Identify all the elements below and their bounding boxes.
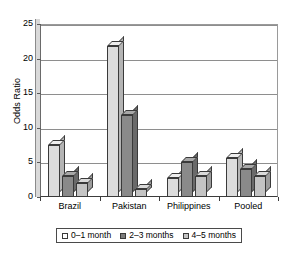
bar-pooled-series2 xyxy=(254,176,266,197)
y-tick-label-20: 20 xyxy=(11,54,33,63)
x-tick-label-philippines: Philippines xyxy=(159,201,219,211)
y-tick-mark xyxy=(37,93,41,94)
x-tick-mark xyxy=(278,197,279,201)
bar-front-face xyxy=(181,162,193,197)
legend-item-2[interactable]: 4–5 months xyxy=(183,231,236,240)
legend-item-0[interactable]: 0–1 month xyxy=(62,231,111,240)
legend-label: 0–1 month xyxy=(71,231,111,240)
x-tick-label-brazil: Brazil xyxy=(40,201,100,211)
bar-front-face xyxy=(135,189,147,197)
legend-swatch-icon xyxy=(120,233,126,239)
legend-item-1[interactable]: 2–3 months xyxy=(120,231,173,240)
bar-front-face xyxy=(195,176,207,197)
y-tick-label-0: 0 xyxy=(11,192,33,201)
bar-front-face xyxy=(107,46,119,197)
bar-front-face xyxy=(254,176,266,197)
bar-philippines-series0 xyxy=(167,178,179,197)
legend-swatch-icon xyxy=(62,233,68,239)
y-tick-label-10: 10 xyxy=(11,123,33,132)
x-tick-label-pooled: Pooled xyxy=(219,201,279,211)
gridline-15 xyxy=(41,94,277,95)
y-axis-title: Odds Ratio xyxy=(12,56,22,146)
bar-brazil-series2 xyxy=(76,183,88,197)
x-tick-label-pakistan: Pakistan xyxy=(100,201,160,211)
legend-label: 2–3 months xyxy=(129,231,173,240)
y-tick-label-5: 5 xyxy=(11,157,33,166)
y-tick-mark xyxy=(37,59,41,60)
bar-front-face xyxy=(240,169,252,197)
gridline-10 xyxy=(41,129,277,130)
bar-pakistan-series1 xyxy=(121,115,133,197)
bar-front-face xyxy=(167,178,179,197)
gridline-20 xyxy=(41,60,277,61)
bar-front-face xyxy=(121,115,133,197)
bar-philippines-series1 xyxy=(181,162,193,197)
bar-brazil-series0 xyxy=(48,145,60,197)
bar-pakistan-series2 xyxy=(135,189,147,197)
bar-pakistan-series0 xyxy=(107,46,119,197)
bar-philippines-series2 xyxy=(195,176,207,197)
bar-pooled-series1 xyxy=(240,169,252,197)
legend-swatch-icon xyxy=(183,233,189,239)
chart-legend: 0–1 month2–3 months4–5 months xyxy=(56,228,242,243)
bar-side-face xyxy=(133,105,138,192)
gridline-25 xyxy=(41,25,277,26)
legend-label: 4–5 months xyxy=(192,231,236,240)
y-tick-mark xyxy=(37,24,41,25)
y-tick-label-15: 15 xyxy=(11,88,33,97)
odds-ratio-bar-chart: Odds Ratio 0510152025 BrazilPakistanPhil… xyxy=(0,0,290,259)
y-tick-mark xyxy=(37,162,41,163)
bar-pooled-series0 xyxy=(226,158,238,197)
y-tick-mark xyxy=(37,128,41,129)
y-tick-label-25: 25 xyxy=(11,19,33,28)
bar-front-face xyxy=(226,158,238,197)
bar-front-face xyxy=(48,145,60,197)
bar-front-face xyxy=(62,176,74,197)
bar-front-face xyxy=(76,183,88,197)
bar-brazil-series1 xyxy=(62,176,74,197)
